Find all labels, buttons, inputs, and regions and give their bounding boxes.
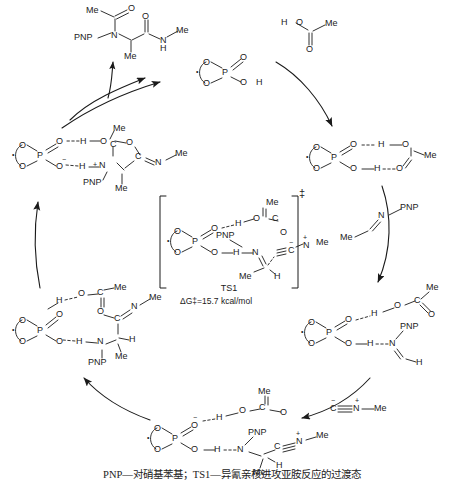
ts-alpha-me: Me: [239, 272, 252, 281]
oxa-quaternary-c: C: [110, 140, 117, 149]
imd-hbond-h-top: H: [56, 296, 63, 305]
ts-acid-c: C: [272, 214, 279, 223]
rc-hbond-h-top: H: [378, 140, 385, 149]
nit-phosphorus: P: [172, 434, 178, 443]
nit-oh-o: O: [191, 445, 198, 454]
lrc-acetate-o2: O: [428, 310, 435, 319]
imd-dot-marker: •: [12, 326, 14, 333]
acid-carbonyl-o: O: [306, 45, 313, 54]
ts-nitrilium-me: Me: [316, 238, 329, 247]
imd-phosphorus: P: [37, 326, 43, 335]
ts-hbond-h-top: H: [235, 219, 242, 228]
oxa-hbond-h-top: H: [80, 137, 87, 146]
ts-dagger-symbol: ‡: [299, 188, 305, 199]
isocyanide-me: Me: [374, 404, 387, 413]
lrc-phosphorus: P: [326, 328, 332, 337]
arrow-cyclization: [35, 202, 40, 288]
ts-pnp: PNP: [216, 231, 235, 240]
imine-n: N: [378, 211, 385, 220]
ts-name-label: TS1: [199, 283, 259, 293]
catalyst-po-double: O: [240, 53, 247, 62]
oxa-ring-o-top: O: [19, 141, 26, 150]
oxa-oh-o: O: [56, 162, 63, 171]
rc-acid-o-bottom: O: [396, 164, 403, 173]
figure-caption: PNP—对硝基苯基；TS1—异氰亲核进攻亚胺反应的过渡态: [0, 466, 464, 481]
imd-hbond-h-bottom: H: [76, 337, 83, 346]
nit-dot-marker: •: [147, 434, 149, 441]
acid-oh-h: H: [281, 18, 288, 27]
nit-nitrilium-me: Me: [316, 431, 329, 440]
ts-nitrilium-c: C: [288, 246, 295, 255]
ts-ring-o-top: O: [174, 227, 181, 236]
nit-acetate-o2: O: [280, 408, 287, 417]
ts-nitrilium-n: N: [303, 241, 310, 250]
arrow-mumm-step: [84, 378, 150, 420]
nit-n-plus-charge: +: [296, 430, 300, 437]
imd-imidate-n: N: [131, 302, 138, 311]
ts-hbond-h-bottom: H: [233, 248, 240, 257]
lrc-ring-o-bottom: O: [308, 339, 315, 348]
nit-acetate-me: Me: [258, 387, 271, 396]
ts-energy-label: ΔG‡=15.7 kcal/mol: [180, 296, 252, 306]
isocyanide-plus-charge: +: [355, 397, 359, 404]
oxa-phosphorus: P: [37, 151, 43, 160]
catalyst-oh-h: H: [256, 78, 263, 87]
nit-nitrilium-n: N: [296, 437, 303, 446]
catalyst-dot-marker: •: [196, 68, 198, 75]
imd-ch-h: H: [129, 335, 136, 344]
oxa-n-plus-charge: +: [93, 161, 97, 168]
oxa-alpha-me: Me: [115, 184, 128, 193]
oxa-ring-ester-o: O: [126, 138, 133, 147]
isocyanide-minus-charge: −: [331, 397, 335, 404]
arrow-acid-binding: [276, 62, 332, 126]
oxa-imino-n: N: [155, 158, 162, 167]
ts-oh-o: O: [211, 248, 218, 257]
oxa-imino-c: C: [135, 152, 142, 161]
oxa-c-me: Me: [113, 124, 126, 133]
rc-acid-o-top: O: [402, 140, 409, 149]
isocyanide-n: N: [353, 404, 360, 413]
ts-n-plus-charge: +: [303, 234, 307, 241]
product-amide-o: O: [142, 12, 149, 21]
nit-ring-o-top: O: [154, 424, 161, 433]
lrc-acetate-me: Me: [426, 283, 439, 292]
nit-hbond-h-top: H: [216, 413, 223, 422]
imd-acyl-c: C: [97, 288, 104, 297]
product-nh-hydrogen: H: [160, 44, 167, 53]
product-pnp: PNP: [74, 33, 93, 42]
catalyst-phosphorus: P: [222, 68, 228, 77]
imd-acyl-o: O: [78, 289, 85, 298]
product-acetyl-o: O: [128, 4, 135, 13]
imd-oh-o: O: [56, 337, 63, 346]
nit-ring-o-bottom: O: [154, 445, 161, 454]
rc-ring-o-bottom: O: [313, 164, 320, 173]
product-n-amide: N: [111, 31, 118, 40]
lrc-hbond-h-top: H: [371, 309, 378, 318]
reaction-scheme-canvas: Me O O PNP N Me N H Me O O P O O H • H O…: [0, 0, 464, 492]
ts-alpha-h: H: [274, 272, 281, 281]
lrc-ring-o-top: O: [308, 318, 315, 327]
arrow-catalyst-release: [62, 82, 160, 128]
nit-po-o: O: [191, 421, 198, 430]
catalyst-oh-o: O: [240, 78, 247, 87]
product-me-acetyl: Me: [86, 6, 99, 15]
oxa-ring-o-bottom: O: [19, 162, 26, 171]
isocyanide-carbon: C: [330, 404, 337, 413]
lrc-iminium-n: N: [389, 339, 396, 348]
product-alpha-me: Me: [124, 52, 137, 61]
imd-ring-o-bottom: O: [19, 337, 26, 346]
rc-po-o: O: [350, 140, 357, 149]
oxa-hbond-h-bottom: H: [79, 162, 86, 171]
rc-phosphorus: P: [331, 153, 337, 162]
ts-phosphorus: P: [192, 237, 198, 246]
oxa-o-minus-charge: −: [62, 156, 66, 163]
lrc-acetate-c: C: [414, 296, 421, 305]
lrc-hbond-h-bottom: H: [367, 339, 374, 348]
product-n-me: Me: [176, 26, 189, 35]
oxa-pnp: PNP: [83, 178, 102, 187]
lrc-po-o: O: [345, 315, 352, 324]
imd-amine-n: N: [97, 337, 104, 346]
oxa-hydroxyl-o: O: [100, 137, 107, 146]
rc-oh-o: O: [350, 164, 357, 173]
ts-ring-o-bottom: O: [174, 248, 181, 257]
